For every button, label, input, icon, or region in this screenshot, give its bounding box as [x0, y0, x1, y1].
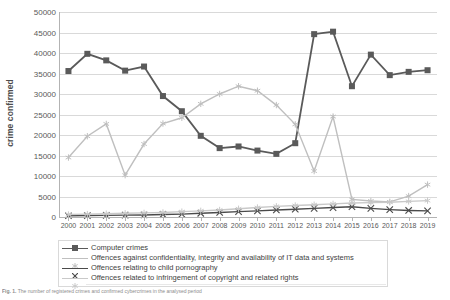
- legend-key-square-icon: [62, 243, 88, 253]
- x-axis-tick-mark: [371, 218, 372, 221]
- y-axis-line: [59, 12, 60, 218]
- x-axis-tick-label: 2019: [420, 222, 436, 229]
- legend-label: Offences related to infringement of copy…: [91, 273, 298, 283]
- data-point-marker: [292, 140, 298, 146]
- series-star: [66, 83, 431, 205]
- x-axis-tick-label: 2017: [382, 222, 398, 229]
- y-axis-tick-label: 20000: [34, 131, 56, 140]
- data-point-marker: [217, 145, 223, 151]
- legend-label: Offences relating to child pornography: [91, 263, 218, 273]
- x-axis-tick-label: 2012: [287, 222, 303, 229]
- x-axis-tick-mark: [390, 218, 391, 221]
- x-axis-tick-label: 2015: [344, 222, 360, 229]
- data-point-marker: [311, 31, 317, 37]
- x-axis-tick-labels: 2000200120022003200420052006200720082009…: [59, 218, 437, 234]
- legend-marker-square-icon: [72, 245, 78, 251]
- y-axis-tick-labels: 5000045000400003500030000250002000015000…: [18, 0, 56, 225]
- data-point-marker: [84, 51, 90, 57]
- x-axis-tick-label: 2000: [61, 222, 77, 229]
- data-point-marker: [311, 168, 317, 174]
- series-line: [68, 86, 427, 202]
- data-point-marker: [236, 143, 242, 149]
- data-point-marker: [179, 108, 185, 114]
- x-axis-tick-mark: [182, 218, 183, 221]
- x-axis-tick-mark: [257, 218, 258, 221]
- data-point-marker: [103, 121, 109, 127]
- data-point-marker: [425, 67, 431, 73]
- x-axis-tick-mark: [409, 218, 410, 221]
- x-axis-tick-mark: [163, 218, 164, 221]
- data-point-marker: [103, 57, 109, 63]
- data-point-marker: [198, 133, 204, 139]
- legend-key-star-icon: [62, 273, 88, 283]
- legend-key-star-icon: [62, 253, 88, 263]
- series-line: [68, 32, 427, 154]
- data-point-marker: [273, 151, 279, 157]
- y-axis-title-label: crime confirmed: [5, 79, 15, 147]
- legend-marker-star-icon: [72, 275, 78, 281]
- x-axis-tick-mark: [144, 218, 145, 221]
- x-axis-tick-label: 2016: [363, 222, 379, 229]
- x-axis-tick-mark: [239, 218, 240, 221]
- y-axis-tick-label: 0: [52, 213, 56, 222]
- y-axis-title: crime confirmed: [2, 0, 18, 225]
- y-axis-tick-label: 40000: [34, 49, 56, 58]
- x-axis-tick-mark: [428, 218, 429, 221]
- chart-legend: Computer crimesOffences against confiden…: [58, 240, 388, 287]
- x-axis-tick-label: 2005: [155, 222, 171, 229]
- legend-marker-star-icon: [72, 255, 78, 261]
- x-axis-tick-mark: [87, 218, 88, 221]
- y-axis-tick-label: 10000: [34, 172, 56, 181]
- caption-text: The number of registered crimes and conf…: [18, 288, 202, 294]
- legend-item[interactable]: Offences relating to child pornography: [62, 263, 384, 273]
- plot-region: [59, 12, 437, 217]
- x-axis-tick-label: 2010: [250, 222, 266, 229]
- data-point-marker: [160, 93, 166, 99]
- x-axis-tick-mark: [201, 218, 202, 221]
- data-point-marker: [217, 91, 223, 97]
- figure-caption: Fig. 1. The number of registered crimes …: [2, 288, 448, 294]
- data-point-marker: [425, 181, 431, 187]
- y-axis-tick-label: 45000: [34, 28, 56, 37]
- x-axis-tick-mark: [276, 218, 277, 221]
- x-axis-tick-mark: [220, 218, 221, 221]
- legend-key-cross-icon: [62, 263, 88, 273]
- chart-area: crime confirmed 500004500040000350003000…: [0, 0, 450, 282]
- x-axis-tick-label: 2001: [80, 222, 96, 229]
- data-point-marker: [349, 83, 355, 89]
- legend-item[interactable]: Offences against confidentiality, integr…: [62, 253, 384, 263]
- x-axis-tick-mark: [125, 218, 126, 221]
- figure-container: crime confirmed 500004500040000350003000…: [0, 0, 450, 300]
- data-point-marker: [368, 52, 374, 58]
- caption-label: Fig. 1.: [2, 288, 16, 294]
- x-axis-tick-mark: [68, 218, 69, 221]
- x-axis-tick-label: 2002: [98, 222, 114, 229]
- x-axis-tick-mark: [314, 218, 315, 221]
- legend-item[interactable]: Computer crimes: [62, 243, 384, 253]
- x-axis-tick-label: 2003: [117, 222, 133, 229]
- x-axis-tick-mark: [295, 218, 296, 221]
- legend-item[interactable]: Offences related to infringement of copy…: [62, 273, 384, 283]
- x-axis-tick-mark: [352, 218, 353, 221]
- y-axis-tick-label: 25000: [34, 110, 56, 119]
- x-axis-tick-label: 2013: [306, 222, 322, 229]
- y-axis-tick-label: 35000: [34, 69, 56, 78]
- data-point-marker: [406, 69, 412, 75]
- x-axis-tick-label: 2007: [193, 222, 209, 229]
- x-axis-tick-label: 2008: [212, 222, 228, 229]
- x-axis-tick-label: 2009: [231, 222, 247, 229]
- data-point-marker: [254, 148, 260, 154]
- x-axis-tick-label: 2018: [401, 222, 417, 229]
- data-point-marker: [141, 64, 147, 70]
- data-point-marker: [387, 72, 393, 78]
- y-axis-tick-label: 50000: [34, 8, 56, 17]
- x-axis-tick-mark: [333, 218, 334, 221]
- y-axis-tick-label: 15000: [34, 151, 56, 160]
- data-point-marker: [65, 68, 71, 74]
- x-axis-tick-label: 2011: [269, 222, 284, 229]
- data-point-marker: [330, 113, 336, 119]
- data-point-marker: [330, 29, 336, 35]
- x-axis-tick-label: 2006: [174, 222, 190, 229]
- data-point-marker: [122, 68, 128, 74]
- legend-marker-cross-icon: [72, 265, 78, 271]
